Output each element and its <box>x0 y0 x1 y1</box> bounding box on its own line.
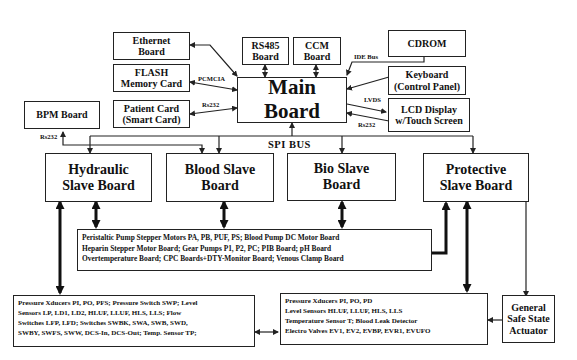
patient-card: Patient Card (Smart Card) <box>113 100 190 128</box>
protective-sensor-line: Pressure Xducers PI, PO, PD <box>285 297 483 307</box>
hydraulic-sensor-line: Switches LFP, LFD; Switches SWBK, SWA, S… <box>18 319 250 329</box>
hydraulic-slave-board: Hydraulic Slave Board <box>45 153 152 202</box>
lcd-display: LCD Display w/Touch Screen <box>388 98 470 132</box>
rs485-line2: Board <box>252 51 279 62</box>
keyboard-line1: Keyboard <box>406 69 449 80</box>
cdrom: CDROM <box>388 30 466 57</box>
rs485-line1: RS485 <box>252 40 280 51</box>
ide-bus-label: IDE Bus <box>354 53 378 60</box>
protective-sensor-line: Temperature Sensor T; Blood Leak Detecto… <box>285 317 483 327</box>
general-safe-state-actuator: General Safe State Actuator <box>502 295 555 343</box>
rs232-lcd-label: Rs232 <box>358 121 375 128</box>
keyboard-control-panel: Keyboard (Control Panel) <box>388 66 466 95</box>
hydraulic-line1: Hydraulic <box>68 162 129 178</box>
blood-line1: Blood Slave <box>185 162 255 178</box>
flash-line1: FLASH <box>135 67 168 78</box>
actuator-line1: General <box>511 302 545 313</box>
patient-card-line1: Patient Card <box>124 103 179 114</box>
protective-sensor-list: Pressure Xducers PI, PO, PD Level Sensor… <box>280 293 488 345</box>
ccm-line1: CCM <box>305 40 329 51</box>
hydraulic-sensor-list: Pressure Xducers PI, PO, PFS; Pressure S… <box>13 295 255 347</box>
rs232-bpm-label: Rs232 <box>40 133 57 140</box>
lvds-label: LVDS <box>364 96 381 103</box>
actuator-line: Peristaltic Pump Stepper Motors PA, PB, … <box>82 233 427 244</box>
bio-slave-board: Bio Slave Board <box>287 153 396 201</box>
rs485-board: RS485 Board <box>242 37 289 65</box>
lcd-line1: LCD Display <box>401 104 457 115</box>
protective-line2: Slave Board <box>440 178 513 194</box>
hydraulic-sensor-line: SWBY, SWFS, SWW, DCS-In, DCS-Out; Temp. … <box>18 329 250 339</box>
bpm-board-label: BPM Board <box>36 109 87 120</box>
main-board-label: Main Board <box>238 76 346 123</box>
pcmcia-label: PCMCIA <box>198 75 225 82</box>
actuator-line2: Safe State <box>507 313 550 324</box>
main-board: Main Board <box>237 77 347 123</box>
protective-sensor-line: Level Sensors HLUF, LLUF, HLS, LLS <box>285 307 483 317</box>
protective-sensor-line: Electro Valves EV1, EV2, EVBP, EVR1, EVU… <box>285 327 483 337</box>
hydraulic-sensor-line: Sensors LP, LD1, LD2, HLUF, LLUF, HLS, L… <box>18 309 250 319</box>
patient-card-line2: (Smart Card) <box>122 114 180 125</box>
ccm-board: CCM Board <box>293 37 341 65</box>
hydraulic-line2: Slave Board <box>62 178 135 194</box>
ethernet-board: Ethernet Board <box>113 32 190 60</box>
cdrom-label: CDROM <box>408 38 447 49</box>
hydraulic-sensor-line: Pressure Xducers PI, PO, PFS; Pressure S… <box>18 299 250 309</box>
actuator-board-list: Peristaltic Pump Stepper Motors PA, PB, … <box>77 229 432 271</box>
bpm-board: BPM Board <box>24 101 100 129</box>
rs232-patient-label: Rs232 <box>202 101 219 108</box>
bio-line2: Board <box>323 177 360 193</box>
actuator-line: Overtemperature Board; CPC Boards+DTY-Mo… <box>82 254 427 265</box>
ccm-line2: Board <box>304 51 331 62</box>
actuator-line: Heparin Stepper Motor Board; Gear Pumps … <box>82 244 427 255</box>
actuator-line3: Actuator <box>509 325 547 336</box>
protective-line1: Protective <box>446 162 506 178</box>
flash-memory-card: FLASH Memory Card <box>113 64 190 92</box>
bio-line1: Bio Slave <box>314 161 370 177</box>
ethernet-board-line1: Ethernet <box>133 35 171 46</box>
blood-slave-board: Blood Slave Board <box>166 153 274 202</box>
keyboard-line2: (Control Panel) <box>394 81 460 92</box>
ethernet-board-line2: Board <box>138 46 165 57</box>
blood-line2: Board <box>201 178 238 194</box>
flash-line2: Memory Card <box>121 78 182 89</box>
spi-bus-label: SPI BUS <box>268 139 311 150</box>
protective-slave-board: Protective Slave Board <box>423 153 529 202</box>
lcd-line2: w/Touch Screen <box>395 115 463 126</box>
